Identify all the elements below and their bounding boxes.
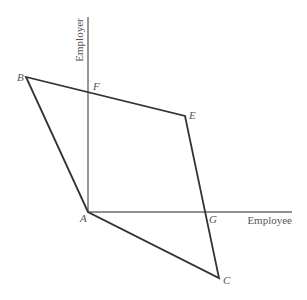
diagram-canvas: Employer Employee A B C E F G [0,0,307,300]
point-label-g: G [209,213,217,225]
point-label-b: B [17,71,24,83]
point-label-f: F [92,80,100,92]
point-label-a: A [79,212,87,224]
bargaining-polygon [26,77,219,278]
diagram-svg: Employer Employee A B C E F G [0,0,307,300]
employee-axis-label: Employee [247,214,292,226]
employer-axis-label: Employer [73,18,85,62]
point-label-c: C [223,274,231,286]
point-label-e: E [188,109,196,121]
